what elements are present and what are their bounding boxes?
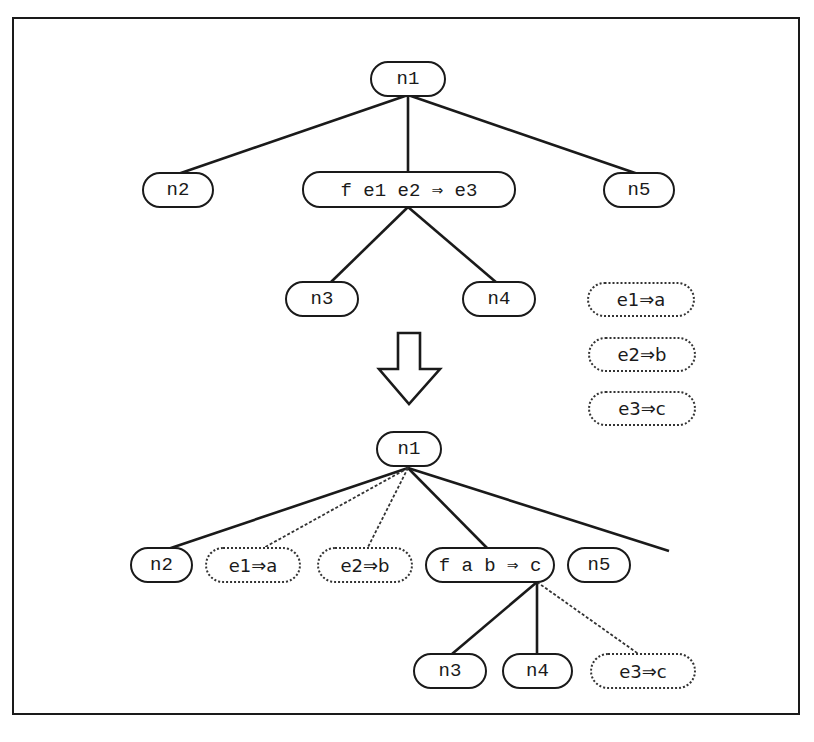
bottom-node-n4: n4	[502, 653, 573, 689]
bottom-node-n3: n3	[413, 653, 487, 689]
substitution-e1-a: e1⇒a	[587, 282, 695, 317]
bottom-node-e1-a: e1⇒a	[205, 547, 301, 583]
bottom-node-n5: n5	[567, 547, 631, 583]
bottom-node-e2-b: e2⇒b	[317, 547, 413, 583]
substitution-e2-b: e2⇒b	[588, 337, 696, 372]
top-node-n3: n3	[285, 281, 359, 317]
top-node-n5: n5	[603, 172, 675, 208]
top-node-n2: n2	[142, 172, 214, 208]
bottom-node-e3-c: e3⇒c	[590, 653, 696, 689]
bottom-node-n2: n2	[130, 547, 193, 583]
tree-edges	[0, 0, 814, 742]
top-node-n1: n1	[370, 61, 446, 97]
bottom-node-n1: n1	[376, 431, 442, 467]
top-node-n4: n4	[462, 281, 536, 317]
substitution-e3-c: e3⇒c	[588, 391, 696, 426]
down-arrow-icon	[379, 333, 440, 404]
bottom-node-f-expression: f a b ⇒ c	[425, 547, 555, 583]
top-node-f-expression: f e1 e2 ⇒ e3	[302, 171, 516, 208]
